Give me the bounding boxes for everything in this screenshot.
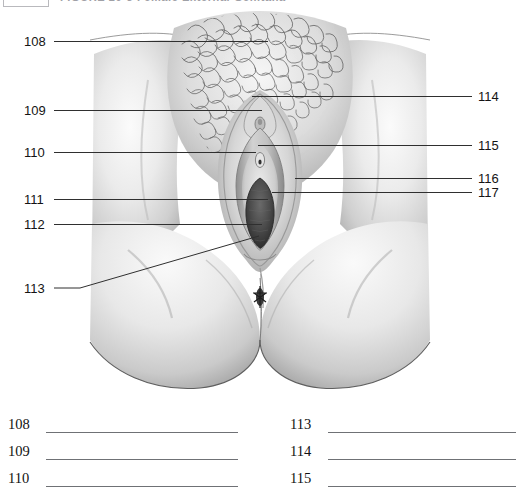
- answer-number: 114: [290, 444, 324, 461]
- callout-number-117: 117: [478, 186, 499, 199]
- answer-blanks-section: 108 109 110 113 114 115: [0, 406, 525, 494]
- answer-blank-line-110[interactable]: [46, 486, 238, 487]
- callout-number-112: 112: [24, 218, 45, 231]
- answer-row[interactable]: 110: [8, 460, 238, 487]
- callout-number-115: 115: [478, 139, 499, 152]
- callout-number-114: 114: [478, 90, 499, 103]
- answer-column-left: 108 109 110: [8, 406, 238, 487]
- answer-blank-line-115[interactable]: [328, 486, 516, 487]
- answer-number: 113: [290, 417, 324, 434]
- answer-row[interactable]: 109: [8, 433, 238, 460]
- callout-number-113: 113: [24, 282, 45, 295]
- answer-number: 110: [8, 471, 42, 488]
- leader-line-113: [54, 236, 259, 288]
- answer-row[interactable]: 113: [290, 406, 516, 433]
- callout-leader-lines: [0, 0, 525, 400]
- answer-number: 108: [8, 417, 42, 434]
- callout-number-109: 109: [24, 104, 46, 117]
- answer-row[interactable]: 108: [8, 406, 238, 433]
- callout-number-108: 108: [24, 35, 46, 48]
- answer-number: 109: [8, 444, 42, 461]
- answer-column-right: 113 114 115: [290, 406, 516, 487]
- answer-number: 115: [290, 471, 324, 488]
- answer-row[interactable]: 114: [290, 433, 516, 460]
- answer-row[interactable]: 115: [290, 460, 516, 487]
- callout-number-111: 111: [24, 193, 44, 206]
- callout-number-116: 116: [478, 172, 499, 185]
- callout-number-110: 110: [24, 146, 45, 159]
